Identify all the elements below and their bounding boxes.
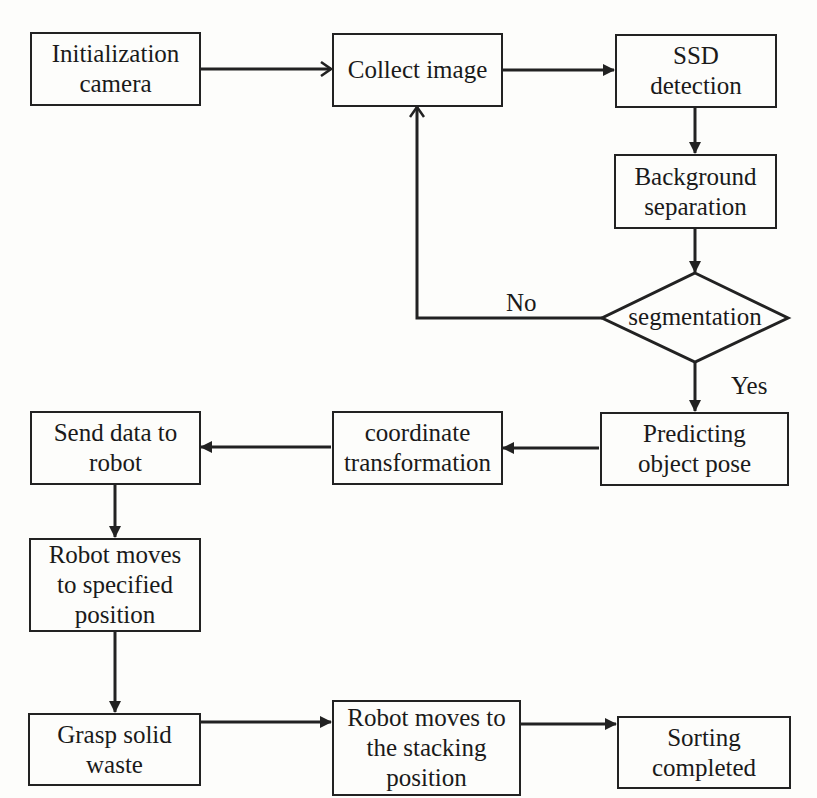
node-send-data-to-robot: Send data to robot [30,411,201,485]
node-initialization-camera: Initialization camera [30,32,201,106]
node-text-line: Robot moves [49,540,182,570]
edge-label-yes: Yes [731,372,767,400]
edge-segmentation-no-to-collect [417,107,602,318]
node-text-line: position [75,600,156,630]
node-text-line: transformation [344,448,491,478]
connectors-layer [0,0,817,798]
node-predicting-object-pose: Predicting object pose [600,412,789,486]
node-sorting-completed: Sorting completed [617,716,791,789]
node-text-line: robot [89,448,142,478]
node-text-line: camera [79,69,151,99]
node-text-line: Send data to [54,418,178,448]
node-text-line: separation [644,192,747,222]
node-text-line: position [386,763,467,793]
node-text-line: detection [650,71,742,101]
node-text-line: Predicting [643,419,746,449]
node-text-line: Collect image [348,55,488,85]
node-text-line: the stacking [366,733,486,763]
node-robot-moves-stacking-position: Robot moves to the stacking position [332,700,521,796]
node-text-line: Grasp solid [57,720,172,750]
node-text-line: SSD [673,41,719,71]
node-ssd-detection: SSD detection [615,34,777,108]
edge-label-no: No [506,289,537,317]
node-coordinate-transformation: coordinate transformation [332,411,503,485]
node-text-line: Background [634,162,756,192]
node-text-line: completed [652,753,756,783]
flowchart-canvas: Initialization camera Collect image SSD … [0,0,817,798]
node-text-line: Robot moves to [347,703,505,733]
node-segmentation-label: segmentation [620,302,770,332]
node-grasp-solid-waste: Grasp solid waste [28,713,201,786]
node-text-line: Initialization [52,39,180,69]
node-background-separation: Background separation [614,154,777,229]
node-robot-moves-specified-position: Robot moves to specified position [29,538,201,632]
node-text-line: coordinate [365,418,471,448]
node-text-line: to specified [57,570,173,600]
node-text-line: waste [86,750,143,780]
node-text-line: object pose [638,449,751,479]
node-collect-image: Collect image [332,33,503,107]
node-text-line: Sorting [667,723,741,753]
